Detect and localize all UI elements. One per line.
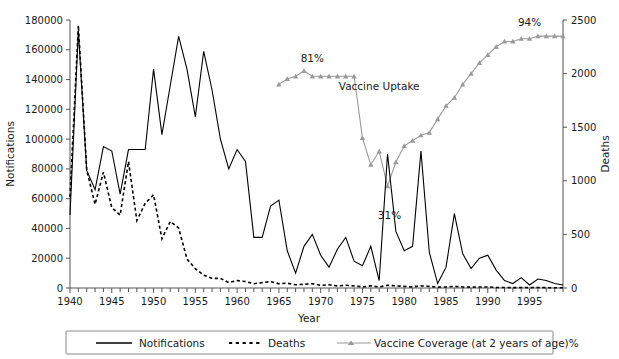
series-line-notifications: [70, 30, 563, 285]
x-tick-label: 1975: [350, 296, 375, 307]
y-tick-label-right: 0: [571, 283, 577, 294]
x-tick-label: 1960: [224, 296, 249, 307]
y-tick-label-left: 160000: [25, 44, 63, 55]
y-tick-label-left: 80000: [31, 163, 63, 174]
x-tick-label: 1950: [141, 296, 166, 307]
legend-label-deaths: Deaths: [268, 337, 305, 349]
x-tick-label: 1955: [183, 296, 208, 307]
y-axis-left-labels: 0200004000060000800001000001200001400001…: [25, 15, 63, 294]
x-tick-label: 1985: [433, 296, 458, 307]
y-axis-right-labels: 05001000150020002500: [571, 15, 596, 294]
vaccine-data-point-marker: [427, 130, 432, 135]
annotation-94-percent: 94%: [518, 16, 541, 28]
y-tick-label-left: 120000: [25, 104, 63, 115]
vaccine-data-point-marker: [452, 95, 457, 100]
vaccine-data-point-marker: [410, 138, 415, 143]
x-axis-ticks: [70, 288, 563, 293]
y-axis-right-title: Deaths: [599, 135, 611, 172]
y-tick-label-left: 60000: [31, 193, 63, 204]
y-tick-label-left: 180000: [25, 15, 63, 26]
x-tick-label: 1995: [517, 296, 542, 307]
vaccine-data-point-marker: [376, 149, 381, 154]
annotation-vaccine-uptake: Vaccine Uptake: [339, 80, 420, 92]
legend-label-notifications: Notifications: [139, 337, 205, 349]
annotation-81-percent: 81%: [301, 52, 324, 64]
x-axis-labels: 1940194519501955196019651970197519801985…: [57, 296, 542, 307]
series-line-deaths: [70, 25, 563, 287]
y-axis-left-title: Notifications: [4, 121, 16, 187]
vaccine-data-point-marker: [368, 162, 373, 167]
y-axis-left-ticks: [66, 20, 70, 288]
vaccine-data-point-marker: [402, 143, 407, 148]
x-tick-label: 1990: [475, 296, 500, 307]
x-tick-label: 1965: [266, 296, 291, 307]
vaccine-data-point-marker: [493, 44, 498, 49]
y-tick-label-right: 1500: [571, 122, 596, 133]
x-axis-title: Year: [297, 312, 321, 324]
y-tick-label-left: 40000: [31, 223, 63, 234]
y-axis-right-ticks: [563, 20, 567, 288]
vaccine-data-point-marker: [293, 74, 298, 79]
legend-label-vaccine-coverage: Vaccine Coverage (at 2 years of age)%: [374, 337, 579, 349]
y-tick-label-right: 2500: [571, 15, 596, 26]
y-tick-label-left: 140000: [25, 74, 63, 85]
annotation-31-percent: 31%: [378, 209, 401, 221]
y-tick-label-right: 2000: [571, 68, 596, 79]
x-tick-label: 1980: [392, 296, 417, 307]
x-tick-label: 1970: [308, 296, 333, 307]
vaccine-data-point-marker: [360, 135, 365, 140]
chart-canvas: 0200004000060000800001000001200001400001…: [0, 0, 619, 359]
x-tick-label: 1945: [99, 296, 124, 307]
vaccine-data-point-marker: [276, 82, 281, 87]
measles-notifications-chart: 0200004000060000800001000001200001400001…: [0, 0, 619, 359]
x-tick-label: 1940: [57, 296, 82, 307]
y-tick-label-right: 1000: [571, 175, 596, 186]
y-tick-label-left: 0: [57, 283, 63, 294]
y-tick-label-left: 100000: [25, 134, 63, 145]
y-tick-label-left: 20000: [31, 253, 63, 264]
y-tick-label-right: 500: [571, 229, 590, 240]
vaccine-data-point-marker: [435, 117, 440, 122]
vaccine-data-point-marker: [301, 68, 306, 73]
vaccine-data-point-marker: [393, 159, 398, 164]
chart-annotations: 81%31%94%Vaccine Uptake: [301, 16, 542, 221]
chart-legend: Notifications Deaths Vaccine Coverage (a…: [66, 331, 579, 354]
